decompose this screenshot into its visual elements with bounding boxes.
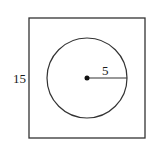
- center-point: [85, 76, 90, 81]
- radius-label: 5: [102, 63, 109, 78]
- square-side-label: 15: [13, 71, 26, 86]
- square-circle-diagram: 5 15: [0, 0, 153, 146]
